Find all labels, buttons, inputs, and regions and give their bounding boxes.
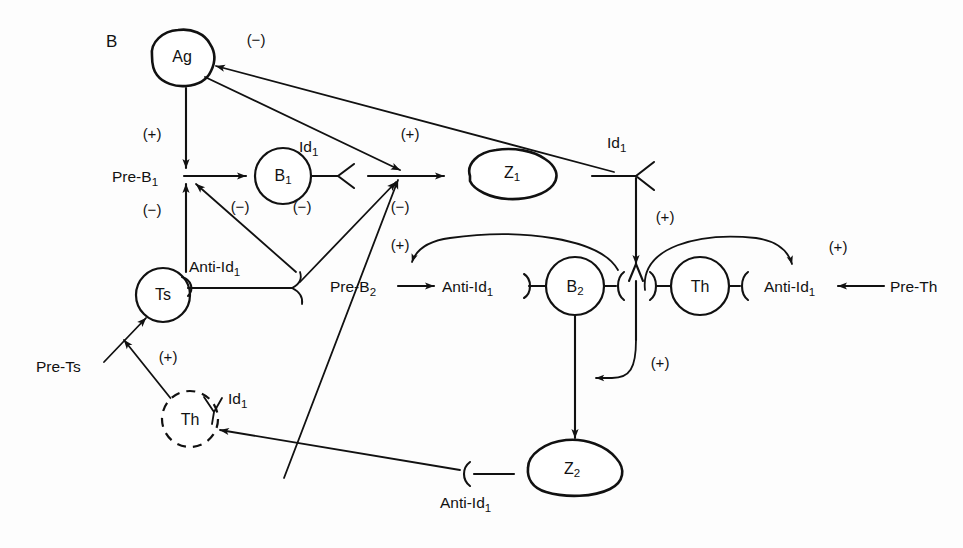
- sign-thdashed-to-ts: (+): [159, 348, 178, 365]
- edge-antiid1bottom-to-junction: [284, 180, 398, 478]
- anti-id1-cup-icon-bottom: [464, 462, 470, 486]
- sign-ag-to-preb1: (+): [143, 125, 162, 142]
- id1-receptor-icon-b1: [338, 164, 354, 188]
- edge-antiid1ts-to-junction: [300, 182, 396, 282]
- node-th-right: Th: [691, 278, 710, 295]
- cup-icon-b2-right: [618, 272, 624, 300]
- node-ag: Ag: [172, 48, 192, 65]
- sign-antiid1-to-preb1: (−): [231, 198, 250, 215]
- central-fork-icon: [629, 264, 643, 340]
- node-pre-b2: Pre-B2: [330, 278, 376, 298]
- sign-th-arc-plus: (+): [829, 238, 848, 255]
- label-anti-id1-bottom: Anti-Id1: [440, 494, 491, 514]
- node-pre-th: Pre-Th: [890, 278, 937, 295]
- node-pre-ts: Pre-Ts: [36, 358, 81, 375]
- label-id1-right: Id1: [607, 134, 626, 154]
- sign-id1-to-complex: (+): [656, 208, 675, 225]
- sign-ag-to-junction: (+): [401, 125, 420, 142]
- cup-icon-th-right: [742, 272, 748, 300]
- sign-ag-minus: (−): [247, 31, 266, 48]
- edge-complex-to-b2z2-hook: [596, 340, 636, 378]
- label-anti-id1-th: Anti-Id1: [764, 278, 815, 298]
- sign-junction-minus: (−): [391, 198, 410, 215]
- label-anti-id1-b2: Anti-Id1: [442, 278, 493, 298]
- id1-receptor-icon-right: [636, 162, 654, 190]
- node-pre-b1: Pre-B1: [112, 168, 158, 188]
- sign-ts-to-preb1: (−): [143, 201, 162, 218]
- node-ts: Ts: [155, 286, 171, 303]
- sign-complex-to-z2-plus: (+): [651, 354, 670, 371]
- ts-receptor-fork-icon: [292, 272, 302, 304]
- sign-b1-to-junction: (−): [293, 198, 312, 215]
- node-th-dashed: Th: [181, 411, 200, 428]
- network-diagram: B Ag (+) (−) (+) Pre-B1 (−) (−) B1 Id1 (…: [0, 0, 963, 548]
- label-anti-id1-ts: Anti-Id1: [189, 258, 240, 278]
- label-id1-th-dashed: Id1: [228, 390, 247, 410]
- sign-b2-arc-plus: (+): [391, 236, 410, 253]
- edge-antiid1bottom-to-thdashed: [220, 430, 460, 470]
- panel-label: B: [106, 32, 117, 51]
- figure-container: B Ag (+) (−) (+) Pre-B1 (−) (−) B1 Id1 (…: [0, 0, 963, 548]
